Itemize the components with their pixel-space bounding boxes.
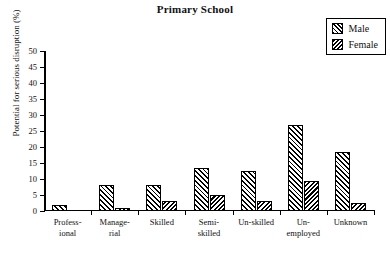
y-tick-label: 15 [29, 158, 38, 168]
bar-female [351, 203, 366, 211]
y-tick-label: 25 [29, 126, 38, 136]
bar-group [194, 51, 225, 211]
y-tick-mark [40, 163, 45, 164]
x-tick-mark [233, 210, 234, 215]
plot-area: 05101520253035404550 Profess-ionalManage… [44, 51, 374, 211]
x-tick-mark [185, 210, 186, 215]
x-category-label-line1: Un-skilled [238, 217, 274, 228]
bar-group [288, 51, 319, 211]
x-tick-mark [374, 210, 375, 215]
x-tick-mark [91, 210, 92, 215]
x-category-label: Unknown [334, 217, 368, 228]
chart-legend: Male Female [326, 18, 386, 55]
y-tick-label: 50 [29, 46, 38, 56]
x-tick-mark [138, 210, 139, 215]
bar-female [257, 201, 272, 211]
x-category-label-line2: skilled [198, 228, 221, 239]
bar-group [52, 51, 83, 211]
y-tick-mark [40, 99, 45, 100]
legend-swatch-female-icon [332, 39, 343, 50]
bar-group [335, 51, 366, 211]
x-category-label: Semi-skilled [198, 217, 221, 239]
y-tick-mark [40, 147, 45, 148]
bar-male [146, 185, 161, 211]
y-tick-label: 10 [29, 174, 38, 184]
x-category-label: Skilled [150, 217, 174, 228]
bar-female [210, 195, 225, 211]
bar-male [52, 205, 67, 211]
y-tick-label: 0 [33, 206, 37, 216]
y-tick-label: 5 [33, 190, 37, 200]
x-category-label: Un-skilled [238, 217, 274, 228]
legend-item-female: Female [332, 39, 378, 50]
x-category-label-line1: Semi- [198, 217, 221, 228]
y-axis-title: Potential for serious disruption (%) [11, 0, 21, 153]
y-tick-label: 45 [29, 62, 38, 72]
chart-container: Primary School Male Female Potential for… [0, 0, 390, 265]
legend-swatch-male-icon [332, 23, 343, 34]
x-category-label-line2: ional [54, 228, 82, 239]
y-tick-mark [40, 83, 45, 84]
y-tick-label: 35 [29, 94, 38, 104]
x-category-label: Manage-rial [100, 217, 130, 239]
bar-group [241, 51, 272, 211]
bar-group [146, 51, 177, 211]
bar-male [241, 171, 256, 211]
x-category-label-line1: Skilled [150, 217, 174, 228]
bar-male [99, 185, 114, 211]
y-tick-mark [40, 51, 45, 52]
x-tick-mark [280, 210, 281, 215]
y-tick-mark [40, 195, 45, 196]
bar-female [162, 201, 177, 211]
bar-male [194, 168, 209, 211]
legend-label-male: Male [349, 24, 370, 34]
legend-label-female: Female [349, 40, 378, 50]
bar-male [288, 125, 303, 211]
y-tick-mark [40, 115, 45, 116]
x-category-label-line2: employed [287, 228, 321, 239]
bar-male [335, 152, 350, 211]
x-category-label-line1: Manage- [100, 217, 130, 228]
bar-group [99, 51, 130, 211]
x-category-label: Un-employed [287, 217, 321, 239]
bar-female [304, 181, 319, 211]
x-category-label: Profess-ional [54, 217, 82, 239]
y-tick-label: 40 [29, 78, 38, 88]
x-category-label-line1: Profess- [54, 217, 82, 228]
legend-item-male: Male [332, 23, 378, 34]
y-tick-mark [40, 131, 45, 132]
y-tick-label: 30 [29, 110, 38, 120]
y-tick-mark [40, 67, 45, 68]
bar-female [115, 208, 130, 211]
chart-title: Primary School [0, 3, 390, 15]
y-tick-mark [40, 179, 45, 180]
y-tick-label: 20 [29, 142, 38, 152]
x-category-label-line1: Unknown [334, 217, 368, 228]
y-tick-mark [40, 211, 45, 212]
x-tick-mark [327, 210, 328, 215]
x-category-label-line2: rial [100, 228, 130, 239]
x-category-label-line1: Un- [287, 217, 321, 228]
